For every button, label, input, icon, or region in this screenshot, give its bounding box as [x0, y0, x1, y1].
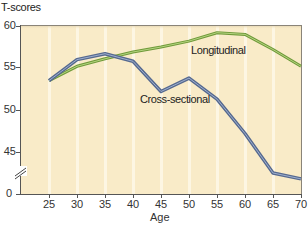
y-tick-55: 55: [0, 60, 16, 72]
x-tick-45: 45: [151, 198, 171, 210]
x-tick-65: 65: [263, 198, 283, 210]
x-tick-35: 35: [95, 198, 115, 210]
x-tick-60: 60: [235, 198, 255, 210]
y-tick-0: 0: [0, 187, 12, 199]
x-tick-30: 30: [67, 198, 87, 210]
x-axis-title: Age: [150, 211, 170, 223]
y-tick-45: 45: [0, 145, 16, 157]
y-axis-title: T-scores: [1, 1, 41, 13]
x-tick-25: 25: [39, 198, 59, 210]
x-tick-55: 55: [207, 198, 227, 210]
label-longitudinal: Longitudinal: [191, 44, 246, 56]
y-tick-50: 50: [0, 103, 16, 115]
y-tick-60: 60: [0, 19, 16, 31]
label-cross-sectional: Cross-sectional: [140, 93, 210, 105]
x-tick-70: 70: [291, 198, 308, 210]
x-tick-50: 50: [179, 198, 199, 210]
plot-svg: [0, 0, 308, 228]
x-tick-40: 40: [123, 198, 143, 210]
chart: T-scores 60 55 50 45 0 25 30 35 40 45 50…: [0, 0, 308, 228]
